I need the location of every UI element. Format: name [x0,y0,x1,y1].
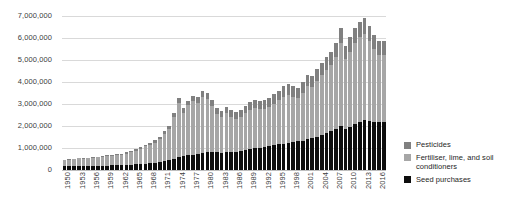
bar-segment-pesticides [353,28,357,43]
y-axis-tick-label: 4,000,000 [18,78,52,86]
bar-segment-fertiliser [315,81,319,136]
y-axis-tick-label: 2,000,000 [18,122,52,130]
bar-segment-seed [296,141,300,170]
bar-segment-fertiliser [363,34,367,120]
bar-segment-fertiliser [186,105,190,155]
bar-segment-fertiliser [91,158,95,166]
bar-segment-fertiliser [210,106,214,152]
legend-item[interactable]: Pesticides [404,140,512,150]
bar-segment-seed [267,146,271,170]
x-axis-slot [381,170,386,216]
bar-segment-seed [301,141,305,170]
bar-segment-fertiliser [86,158,90,166]
bar-segment-pesticides [263,100,267,109]
bar-segment-fertiliser [277,100,281,144]
bar-segment-fertiliser [125,154,129,165]
bar-segment-seed [310,138,314,170]
bar-segment-fertiliser [258,109,262,148]
bar-segment-pesticides [368,26,372,41]
bar-segment-fertiliser [206,99,210,152]
legend-swatch-icon [404,176,411,183]
bar-segment-pesticides [363,18,367,34]
legend-item[interactable]: Fertiliser, lime, and soil conditioners [404,153,512,172]
bar-segment-seed [158,162,162,170]
legend-label: Fertiliser, lime, and soil conditioners [416,153,512,172]
bar-segment-fertiliser [182,113,186,156]
legend-swatch-icon [404,142,411,149]
y-axis-tick-label: 1,000,000 [18,144,52,152]
bar-segment-seed [382,122,386,170]
bar-segment-pesticides [334,43,338,57]
bar-segment-seed [234,152,238,170]
bar-segment-seed [315,137,319,170]
bar-segment-fertiliser [244,113,248,150]
bar-segment-fertiliser [82,159,86,166]
bar-segment-seed [339,126,343,170]
bar-segment-fertiliser [377,55,381,123]
bar-segment-pesticides [253,100,257,108]
bar-segment-pesticides [358,22,362,37]
bar-segment-fertiliser [310,87,314,138]
bar-segment-seed [186,155,190,170]
bar-segment-seed [306,139,310,170]
bar-segment-seed [363,120,367,170]
bar-segment-seed [263,147,267,170]
bar-segment-seed [348,127,352,170]
bar-segment-pesticides [267,98,271,107]
bar-segment-fertiliser [220,117,224,153]
bar-series-container [62,16,386,170]
bar-segment-seed [329,131,333,170]
bar-segment-fertiliser [167,129,171,160]
bar-segment-seed [291,142,295,170]
bar-segment-pesticides [339,28,343,43]
bar-segment-pesticides [296,88,300,98]
bar-segment-fertiliser [101,157,105,166]
bar-column [381,16,386,170]
bar-segment-fertiliser [177,103,181,157]
y-axis-tick-label: 6,000,000 [18,34,52,42]
bar-segment-seed [287,143,291,170]
bar-segment-fertiliser [110,156,114,166]
bar-segment-seed [167,160,171,170]
stacked-bar-chart: 01,000,0002,000,0003,000,0004,000,0005,0… [0,0,518,219]
legend-label: Seed purchases [416,175,471,185]
bar-segment-fertiliser [301,93,305,141]
bar-segment-seed [325,133,329,170]
legend-item[interactable]: Seed purchases [404,175,512,185]
bar-segment-pesticides [239,110,243,117]
bar-segment-pesticides [301,82,305,93]
bar-segment-seed [239,151,243,170]
bar-segment-seed [196,154,200,170]
bar-segment-pesticides [344,46,348,60]
bar-segment-seed [210,152,214,170]
bar-segment-fertiliser [129,152,133,164]
bar-segment-pesticides [382,41,386,55]
bar-segment-fertiliser [282,97,286,144]
bar-segment-fertiliser [329,65,333,131]
bar-segment-pesticides [258,101,262,109]
bar-segment-fertiliser [77,158,81,165]
bar-segment-pesticides [310,76,314,87]
bar-segment-fertiliser [267,107,271,147]
bar-segment-seed [320,135,324,170]
bar-segment-fertiliser [296,98,300,142]
bar-segment-seed [253,148,257,170]
bar-segment-fertiliser [148,145,152,164]
bar-segment-fertiliser [67,160,71,167]
bar-segment-fertiliser [134,151,138,165]
bar-segment-seed [215,152,219,170]
y-axis-tick-label: 7,000,000 [18,12,52,20]
bar-segment-fertiliser [344,59,348,129]
bar-segment-fertiliser [234,119,238,152]
bar-segment-fertiliser [358,37,362,121]
bar-segment-fertiliser [263,109,267,147]
bar-segment-seed [282,144,286,170]
bar-segment-fertiliser [325,70,329,133]
bar-segment-pesticides [315,69,319,81]
bar-segment-seed [229,152,233,170]
bar-segment-fertiliser [158,139,162,162]
bar-segment-fertiliser [201,97,205,153]
bar-segment-seed [353,124,357,170]
bar-segment-seed [368,121,372,170]
bar-segment-fertiliser [153,143,157,163]
